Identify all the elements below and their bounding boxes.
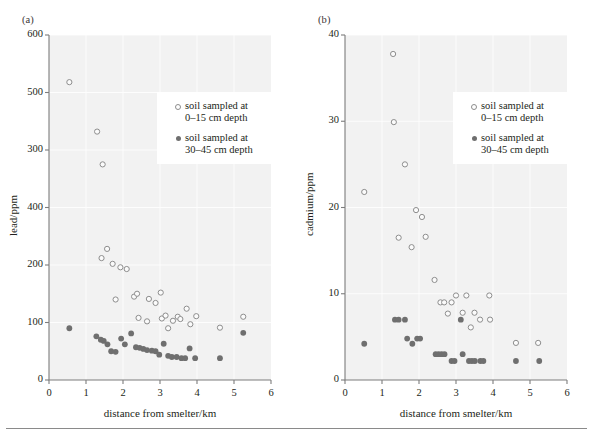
data-point [453,293,458,298]
y-tick-label: 200 [9,258,43,269]
data-point [182,355,188,361]
data-point [156,352,162,358]
x-tick-label: 1 [372,387,392,398]
data-point [146,296,151,301]
data-point [136,315,141,320]
legend-label-deep: soil sampled at 30–45 cm depth [481,132,549,155]
footer-rule [6,428,587,429]
x-tick-label: 3 [150,387,170,398]
data-point [396,317,402,323]
data-point [513,340,518,345]
data-point [362,189,367,194]
x-tick-label: 1 [76,387,96,398]
data-point [184,306,189,311]
data-point [217,325,222,330]
data-point [240,330,246,336]
x-tick-label: 2 [113,387,133,398]
data-point [128,331,134,337]
legend-a: soil sampled at 0–15 cm depth soil sampl… [157,92,285,164]
data-point [409,245,414,250]
data-point [477,317,482,322]
data-point [409,341,415,347]
data-point [536,358,542,364]
y-tick-label: 30 [305,114,339,125]
y-tick-label: 20 [305,201,339,212]
data-point [170,318,175,323]
data-point [442,300,447,305]
data-point [361,341,367,347]
data-point [99,256,104,261]
data-point [134,291,139,296]
data-point [460,310,465,315]
data-point [442,351,448,357]
x-tick-label: 0 [335,387,355,398]
data-point [194,314,199,319]
data-point [404,336,410,342]
data-point [402,162,407,167]
legend-label-deep: soil sampled at 30–45 cm depth [185,132,253,155]
data-point [460,351,466,357]
data-point [423,234,428,239]
data-point [161,341,167,347]
data-point [513,358,519,364]
data-point [166,326,171,331]
data-point [153,300,158,305]
data-point [67,80,72,85]
y-tick-label: 40 [305,28,339,39]
filled-circle-icon [171,132,185,141]
y-tick-label: 600 [9,28,43,39]
data-point [449,300,454,305]
data-point [187,345,193,351]
data-point [536,340,541,345]
data-point [241,314,246,319]
data-point [472,310,477,315]
x-tick-label: 5 [224,387,244,398]
legend-entry-surface: soil sampled at 0–15 cm depth [171,100,281,123]
data-point [468,325,473,330]
panel-label-a: (a) [22,14,34,25]
data-point [458,317,464,323]
y-tick-label: 100 [9,316,43,327]
legend-entry-surface: soil sampled at 0–15 cm depth [467,100,577,123]
data-point [163,313,168,318]
data-point [452,358,458,364]
data-point [105,341,111,347]
data-point [480,358,486,364]
x-tick-label: 3 [446,387,466,398]
open-circle-icon [171,100,185,110]
y-tick-label: 500 [9,86,43,97]
y-tick-label: 300 [9,143,43,154]
data-point [188,322,193,327]
data-point [419,214,424,219]
data-point [118,265,123,270]
legend-entry-deep: soil sampled at 30–45 cm depth [171,132,281,155]
data-point [100,162,105,167]
data-point [472,358,478,364]
y-tick-label: 0 [305,373,339,384]
data-point [66,325,72,331]
data-point [124,266,129,271]
legend-b: soil sampled at 0–15 cm depth soil sampl… [453,92,581,164]
data-point [122,341,128,347]
data-point [144,319,149,324]
x-tick-label: 4 [187,387,207,398]
figure-scatter-soil-contamination: (a) lead/ppm distance from smelter/km so… [0,0,593,437]
filled-circle-icon [467,132,481,141]
data-point [95,129,100,134]
data-point [432,277,437,282]
y-tick-label: 400 [9,201,43,212]
data-point [113,297,118,302]
data-point [391,51,396,56]
data-point [178,316,183,321]
data-point [158,290,163,295]
legend-entry-deep: soil sampled at 30–45 cm depth [467,132,577,155]
x-tick-label: 0 [39,387,59,398]
y-tick-label: 0 [9,373,43,384]
data-point [445,311,450,316]
data-point [217,355,223,361]
chart-panel-b: (b) cadmium/ppm distance from smelter/km… [296,0,592,437]
y-tick-label: 10 [305,287,339,298]
data-point [413,207,418,212]
data-point [487,317,492,322]
open-circle-icon [467,100,481,110]
